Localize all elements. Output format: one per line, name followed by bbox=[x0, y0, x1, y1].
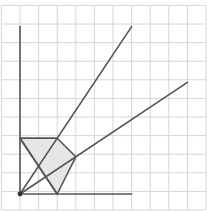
shaded-quadrilateral bbox=[20, 138, 76, 194]
origin-point bbox=[18, 192, 23, 197]
geometry-diagram bbox=[0, 0, 207, 212]
diagram-canvas bbox=[0, 0, 207, 212]
figure bbox=[18, 27, 188, 197]
grid bbox=[1, 5, 206, 210]
